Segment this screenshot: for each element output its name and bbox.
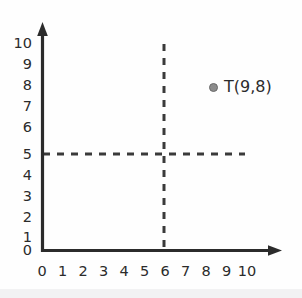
y-tick-label-5: 5 — [6, 147, 32, 162]
y-tick-label-8: 8 — [6, 78, 32, 93]
y-axis-arrow-icon — [37, 22, 48, 36]
y-tick-label-3: 3 — [6, 189, 32, 204]
coordinate-plot-canvas — [0, 0, 302, 298]
y-tick-label-2: 2 — [6, 210, 32, 225]
y-tick-label-4: 4 — [6, 168, 32, 183]
y-tick-label-7: 7 — [6, 99, 32, 114]
x-tick-label-10: 10 — [235, 264, 259, 279]
y-tick-label-9: 9 — [6, 57, 32, 72]
point-label-text: T(9,8) — [224, 79, 272, 95]
x-axis-arrow-icon — [268, 245, 282, 256]
y-tick-label-0: 0 — [6, 243, 32, 258]
graph-screenshot: 10 9 8 7 6 5 4 3 2 1 0 0 1 2 3 4 5 6 7 8… — [0, 0, 302, 298]
point-annotation-T: T(9,8) — [209, 79, 272, 95]
point-marker-icon — [209, 83, 218, 92]
y-tick-label-10: 10 — [6, 36, 32, 51]
y-tick-label-6: 6 — [6, 120, 32, 135]
bottom-edge-band — [0, 289, 302, 298]
